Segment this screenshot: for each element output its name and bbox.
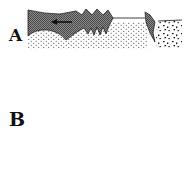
panel-label-a: A <box>9 27 22 44</box>
diagram-canvas <box>0 0 193 189</box>
panel-label-b: B <box>9 110 25 129</box>
panel-a-coarse-region <box>156 20 182 49</box>
panel-a <box>27 9 182 49</box>
